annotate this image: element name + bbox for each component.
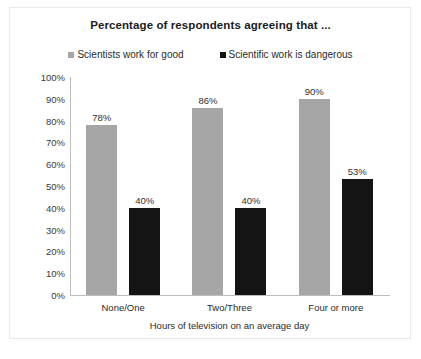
bar-slot: 53%: [342, 77, 373, 295]
bar-scientists-work-for-good[interactable]: [86, 125, 117, 295]
y-axis-tick-label: 100%: [41, 72, 65, 83]
bar-slot: 90%: [299, 77, 330, 295]
bar-slot: 40%: [129, 77, 160, 295]
y-axis-tick-label: 10%: [46, 268, 65, 279]
bar-slot: 40%: [235, 77, 266, 295]
bar-value-label: 78%: [92, 112, 111, 123]
bar-chart: Percentage of respondents agreeing that …: [0, 0, 421, 359]
bar-scientific-work-is-dangerous[interactable]: [235, 208, 266, 295]
x-axis-tick-label: Four or more: [283, 302, 389, 313]
bar-scientists-work-for-good[interactable]: [192, 108, 223, 295]
bar-scientific-work-is-dangerous[interactable]: [342, 179, 373, 295]
bar-value-label: 53%: [348, 166, 367, 177]
bar-slot: 78%: [86, 77, 117, 295]
x-axis-tick-labels: None/One Two/Three Four or more: [70, 302, 389, 313]
y-axis-tick-label: 0%: [51, 290, 65, 301]
bar-value-label: 40%: [135, 195, 154, 206]
bar-group-none-one: 78% 40%: [70, 77, 176, 295]
y-axis-tick-label: 40%: [46, 202, 65, 213]
y-axis-tick-label: 80%: [46, 115, 65, 126]
x-axis-title: Hours of television on an average day: [70, 320, 389, 331]
bar-group-four-or-more: 90% 53%: [283, 77, 389, 295]
y-axis-tick-label: 70%: [46, 137, 65, 148]
bar-value-label: 90%: [305, 86, 324, 97]
x-axis-tick-label: None/One: [70, 302, 176, 313]
bar-value-label: 86%: [198, 95, 217, 106]
y-axis-tick-labels: 100% 90% 80% 70% 60% 50% 40% 30% 20% 10%…: [20, 77, 65, 295]
bar-value-label: 40%: [241, 195, 260, 206]
y-axis-tick-label: 60%: [46, 159, 65, 170]
bar-group-two-three: 86% 40%: [176, 77, 282, 295]
bar-scientists-work-for-good[interactable]: [299, 99, 330, 295]
y-axis-tick-label: 20%: [46, 246, 65, 257]
bar-groups: 78% 40% 86% 40%: [70, 77, 389, 295]
bar-scientific-work-is-dangerous[interactable]: [129, 208, 160, 295]
y-axis-tick-label: 30%: [46, 224, 65, 235]
bar-slot: 86%: [192, 77, 223, 295]
y-axis-tick-label: 90%: [46, 93, 65, 104]
y-axis-tick-label: 50%: [46, 181, 65, 192]
x-axis-tick-label: Two/Three: [176, 302, 282, 313]
plot-wrapper: 100% 90% 80% 70% 60% 50% 40% 30% 20% 10%…: [0, 0, 421, 359]
